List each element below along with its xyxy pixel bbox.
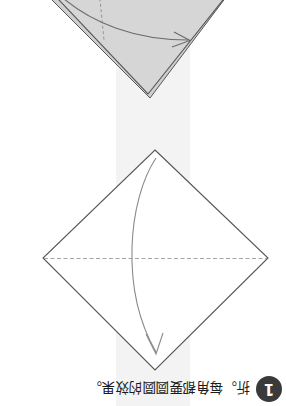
- caption-text: 折。每角都要圆圆的效果。: [88, 379, 250, 399]
- step-lower-group: [43, 150, 268, 370]
- diagram-page: 1 折。每角都要圆圆的效果。: [0, 0, 286, 406]
- flat-square-white: [43, 150, 268, 370]
- step-upper-group: [38, 0, 258, 98]
- step-number-badge: 1: [256, 376, 282, 402]
- origami-diagram-artwork: [0, 0, 286, 406]
- caption-row: 1 折。每角都要圆圆的效果。: [0, 372, 286, 406]
- folded-paper-gray: [42, 0, 258, 94]
